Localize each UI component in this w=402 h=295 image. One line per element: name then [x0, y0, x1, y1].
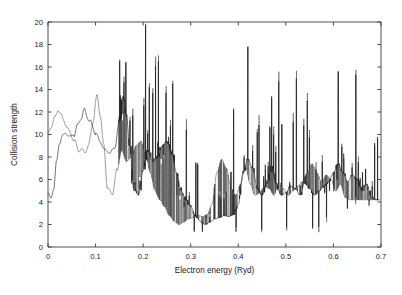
y-tick-label: 8 — [39, 153, 43, 162]
y-tick-label: 0 — [39, 243, 43, 252]
x-axis-title: Electron energy (Ryd) — [175, 266, 255, 275]
y-tick-label: 14 — [35, 85, 43, 94]
x-tick-label: 0 — [46, 252, 50, 261]
x-tick-label: 0.5 — [281, 252, 292, 261]
y-axis-title: Collision strength — [10, 103, 19, 166]
x-tick-label: 0.2 — [138, 252, 149, 261]
y-tick-label: 4 — [39, 198, 43, 207]
y-tick-label: 18 — [35, 40, 43, 49]
x-tick-label: 0.6 — [328, 252, 339, 261]
y-tick-label: 10 — [35, 130, 43, 139]
x-tick-label: 0.3 — [185, 252, 196, 261]
y-tick-label: 20 — [35, 18, 43, 27]
y-tick-label: 16 — [35, 63, 43, 72]
y-tick-label: 2 — [39, 220, 43, 229]
y-tick-label: 12 — [35, 108, 43, 117]
plot-canvas: 00.10.20.30.40.50.60.7 02468101214161820… — [0, 0, 402, 295]
x-tick-label: 0.1 — [90, 252, 101, 261]
x-tick-label: 0.4 — [233, 252, 244, 261]
y-tick-label: 6 — [39, 175, 43, 184]
x-tick-label: 0.7 — [376, 252, 387, 261]
collision-strength-figure: 00.10.20.30.40.50.60.7 02468101214161820… — [0, 0, 402, 295]
